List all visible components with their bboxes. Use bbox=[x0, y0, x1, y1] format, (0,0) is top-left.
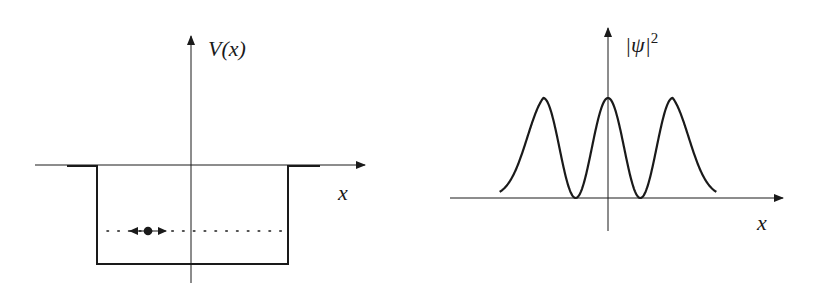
well-outline bbox=[67, 166, 320, 264]
psi-axis-label: |ψ|2 bbox=[625, 30, 658, 57]
x-axis-label-left: x bbox=[337, 180, 348, 205]
probability-density-panel: |ψ|2 x bbox=[450, 28, 783, 235]
x-axis-label-right: x bbox=[756, 210, 767, 235]
diagram-canvas: V(x) x |ψ|2 x bbox=[0, 0, 818, 290]
particle-dot bbox=[144, 227, 153, 236]
arrow-left-icon bbox=[129, 227, 138, 235]
v-axis-label: V(x) bbox=[208, 36, 246, 61]
potential-well-panel: V(x) x bbox=[35, 36, 365, 283]
arrow-right-icon bbox=[158, 227, 167, 235]
particle bbox=[129, 227, 167, 236]
